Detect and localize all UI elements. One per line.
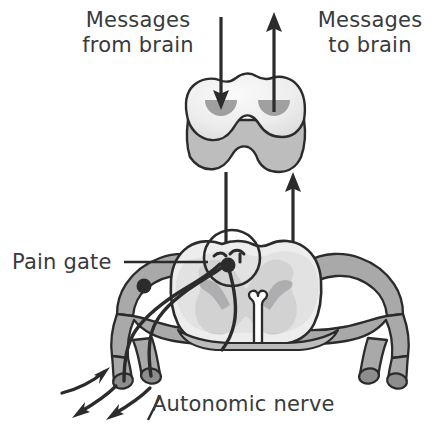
sensory-input-arrowhead xyxy=(94,367,110,384)
label-messages-to-brain: Messages to brain xyxy=(300,8,440,58)
label-autonomic-nerve: Autonomic nerve xyxy=(152,392,335,417)
nerve-output-arrow-2-curve xyxy=(114,388,150,414)
synapse-node xyxy=(221,258,236,273)
diagram-canvas: Messages from brain Messages to brain Pa… xyxy=(0,0,444,443)
label-pain-gate: Pain gate xyxy=(12,250,112,275)
nerve-output-arrowhead-1 xyxy=(72,402,90,418)
spinal-cord-segment-block xyxy=(186,74,305,172)
stimulus-direction-arrows xyxy=(62,372,150,414)
dorsal-root-ganglion-node xyxy=(137,279,152,294)
nerve-output-arrow-1-curve xyxy=(80,386,116,412)
nerve-end-caps xyxy=(112,367,409,391)
label-messages-from-brain: Messages from brain xyxy=(64,8,212,58)
pain-gate-illustration xyxy=(0,0,444,443)
nerve-output-arrowhead-2 xyxy=(106,404,124,420)
